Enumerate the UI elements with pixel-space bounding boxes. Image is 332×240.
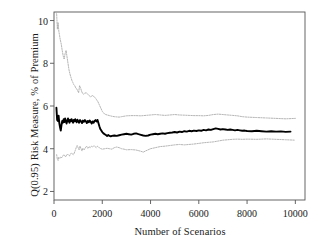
x-tick-label: 0 [52,208,57,219]
y-tick-label: 2 [22,186,48,197]
data-series-group [56,12,295,160]
chart-plot-area [0,0,332,240]
y-tick-label: 6 [22,101,48,112]
x-axis-label-wrapper: Number of Scenarios [54,221,306,239]
x-tick-label: 6000 [189,208,209,219]
plot-border [54,12,305,200]
plot-frame [54,12,305,200]
y-tick-label: 10 [22,15,48,26]
series-lower-confidence-band [57,139,296,161]
y-tick-label: 8 [22,58,48,69]
y-axis-label-wrapper: Q(0.95) Risk Measure, % of Premium [24,20,42,210]
series-risk-measure-estimate [56,108,290,137]
y-tick-label: 4 [22,143,48,154]
x-tick-label: 2000 [92,208,112,219]
x-axis-label: Number of Scenarios [134,226,225,237]
x-tick-label: 10000 [283,208,308,219]
axis-ticks [50,21,295,204]
figure-container: Q(0.95) Risk Measure, % of Premium Numbe… [0,0,332,240]
x-tick-label: 4000 [141,208,161,219]
series-upper-confidence-band [56,12,295,119]
x-tick-label: 8000 [237,208,257,219]
